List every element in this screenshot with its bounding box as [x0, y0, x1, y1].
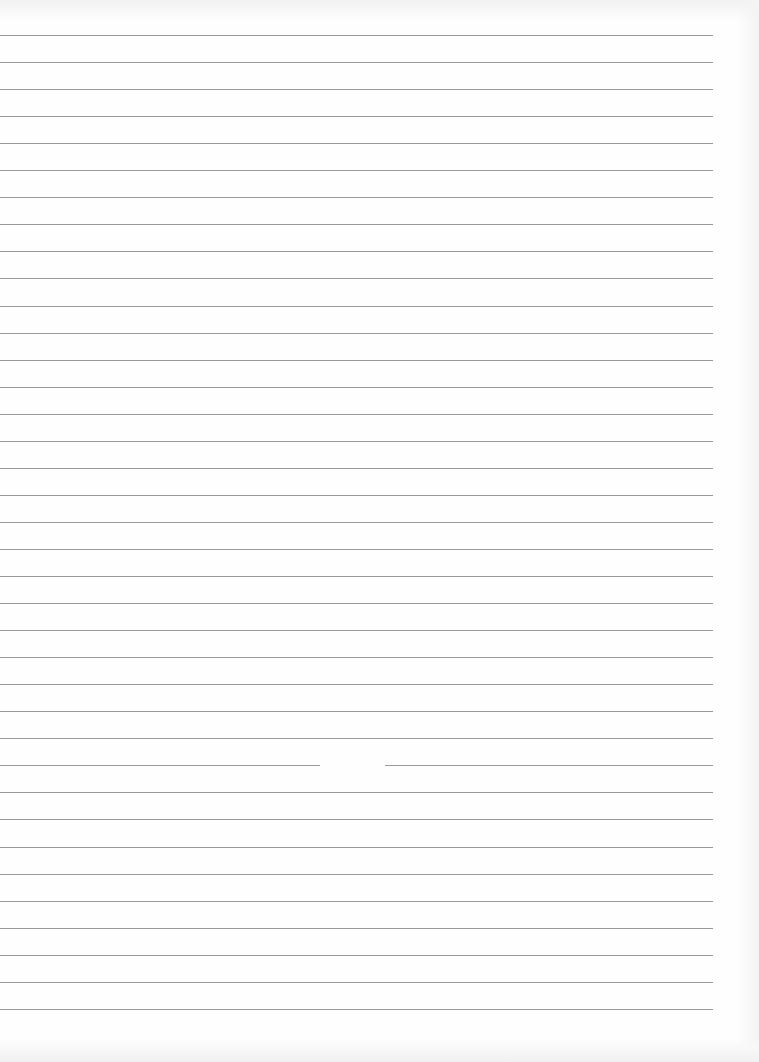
ruled-line: [0, 35, 713, 36]
ruled-line: [0, 387, 713, 388]
ruled-line: [0, 738, 713, 739]
ruled-line: [0, 928, 713, 929]
ruled-line: [0, 684, 713, 685]
ruled-line: [0, 819, 713, 820]
ruled-line: [0, 955, 713, 956]
ruled-line: [0, 143, 713, 144]
ruled-line: [0, 874, 713, 875]
top-edge-shadow: [0, 0, 759, 22]
ruled-line: [0, 306, 713, 307]
ruled-line: [0, 711, 713, 712]
ruled-line: [0, 468, 713, 469]
lined-paper-page: [0, 0, 759, 1062]
ruled-line: [0, 1009, 713, 1010]
ruled-line: [0, 251, 713, 252]
ruled-line: [0, 89, 713, 90]
right-edge-shadow: [737, 0, 759, 1062]
bottom-edge-shadow: [0, 1038, 759, 1062]
ruled-line: [0, 576, 713, 577]
ruled-line: [0, 847, 713, 848]
line-gap: [320, 764, 385, 767]
ruled-line: [0, 792, 713, 793]
ruled-line: [0, 657, 713, 658]
ruled-line: [0, 630, 713, 631]
ruled-line: [0, 360, 713, 361]
ruled-line: [0, 549, 713, 550]
ruled-line: [0, 414, 713, 415]
ruled-line: [0, 62, 713, 63]
ruled-line: [0, 495, 713, 496]
ruled-line: [0, 278, 713, 279]
ruled-line: [0, 441, 713, 442]
ruled-line: [0, 116, 713, 117]
ruled-line: [0, 197, 713, 198]
ruled-line: [0, 603, 713, 604]
ruled-line: [0, 982, 713, 983]
ruled-line: [0, 224, 713, 225]
ruled-line: [0, 333, 713, 334]
ruled-line: [0, 901, 713, 902]
ruled-line: [0, 170, 713, 171]
ruled-line: [0, 522, 713, 523]
